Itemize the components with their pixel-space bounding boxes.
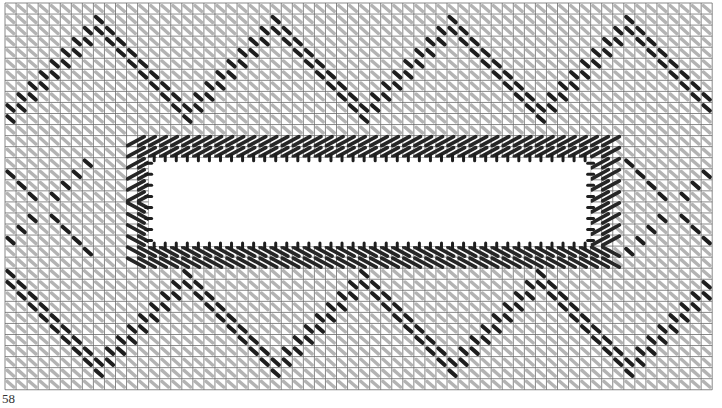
page-number: 58 bbox=[2, 391, 15, 407]
blank-opening bbox=[149, 158, 591, 246]
stitch-chart bbox=[0, 0, 722, 392]
